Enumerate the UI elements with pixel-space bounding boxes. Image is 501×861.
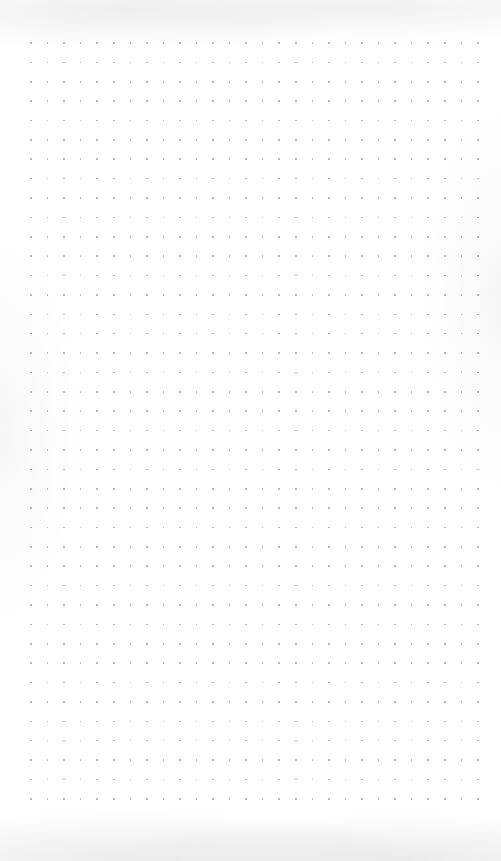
grid-dot: [295, 643, 297, 645]
grid-dot: [80, 488, 82, 490]
grid-dot: [179, 410, 181, 412]
grid-dot: [212, 565, 214, 567]
grid-dot: [229, 507, 231, 509]
grid-dot: [130, 120, 132, 122]
grid-dot: [328, 546, 330, 548]
grid-dot: [411, 217, 413, 219]
grid-dot: [328, 721, 330, 723]
grid-dot: [278, 565, 280, 567]
grid-dot: [444, 352, 446, 354]
grid-dot: [80, 294, 82, 296]
grid-dot: [146, 624, 148, 626]
grid-dot: [47, 779, 49, 781]
grid-dot: [312, 488, 314, 490]
grid-dot: [30, 527, 32, 529]
grid-dot: [394, 294, 396, 296]
grid-dot: [229, 81, 231, 83]
grid-dot: [196, 333, 198, 335]
grid-dot: [63, 624, 65, 626]
grid-dot: [146, 217, 148, 219]
grid-dot: [47, 546, 49, 548]
grid-dot: [212, 604, 214, 606]
grid-dot: [163, 139, 165, 141]
grid-dot: [444, 585, 446, 587]
grid-dot: [30, 565, 32, 567]
grid-dot: [63, 469, 65, 471]
grid-dot: [394, 604, 396, 606]
grid-dot: [461, 662, 463, 664]
grid-dot: [278, 682, 280, 684]
grid-dot: [163, 798, 165, 800]
grid-dot: [63, 62, 65, 64]
grid-dot: [378, 488, 380, 490]
grid-dot: [212, 236, 214, 238]
grid-dot: [80, 527, 82, 529]
grid-dot: [278, 158, 280, 160]
grid-dot: [411, 352, 413, 354]
grid-dot: [245, 372, 247, 374]
grid-dot: [245, 217, 247, 219]
grid-dot: [196, 662, 198, 664]
grid-dot: [130, 798, 132, 800]
grid-dot: [312, 81, 314, 83]
grid-dot: [345, 139, 347, 141]
grid-dot: [30, 81, 32, 83]
grid-dot: [411, 527, 413, 529]
grid-dot: [345, 62, 347, 64]
grid-dot: [278, 740, 280, 742]
grid-dot: [295, 236, 297, 238]
grid-dot: [163, 62, 165, 64]
grid-dot: [345, 372, 347, 374]
grid-dot: [113, 779, 115, 781]
grid-dot: [262, 139, 264, 141]
grid-dot: [328, 255, 330, 257]
grid-dot: [113, 294, 115, 296]
grid-dot: [394, 740, 396, 742]
grid-dot: [229, 352, 231, 354]
grid-dot: [262, 197, 264, 199]
grid-dot: [113, 120, 115, 122]
grid-dot: [146, 275, 148, 277]
grid-dot: [477, 314, 479, 316]
grid-dot: [245, 333, 247, 335]
grid-dot: [262, 294, 264, 296]
grid-dot: [328, 217, 330, 219]
grid-dot: [113, 410, 115, 412]
grid-dot: [262, 565, 264, 567]
grid-dot: [461, 643, 463, 645]
grid-dot: [47, 372, 49, 374]
grid-dot: [229, 294, 231, 296]
grid-dot: [30, 682, 32, 684]
grid-dot: [130, 333, 132, 335]
grid-dot: [345, 662, 347, 664]
grid-dot: [196, 721, 198, 723]
grid-dot: [196, 372, 198, 374]
grid-dot: [278, 624, 280, 626]
grid-dot: [113, 139, 115, 141]
grid-dot: [461, 779, 463, 781]
grid-dot: [295, 42, 297, 44]
grid-dot: [113, 662, 115, 664]
grid-dot: [411, 158, 413, 160]
grid-dot: [345, 449, 347, 451]
grid-dot: [212, 624, 214, 626]
grid-dot: [427, 217, 429, 219]
grid-dot: [427, 236, 429, 238]
grid-dot: [427, 721, 429, 723]
dot-grid: [0, 0, 501, 861]
grid-dot: [312, 236, 314, 238]
grid-dot: [427, 759, 429, 761]
grid-dot: [361, 643, 363, 645]
grid-dot: [30, 798, 32, 800]
grid-dot: [345, 294, 347, 296]
grid-dot: [229, 449, 231, 451]
grid-dot: [328, 430, 330, 432]
grid-dot: [444, 798, 446, 800]
grid-dot: [212, 643, 214, 645]
grid-dot: [461, 275, 463, 277]
grid-dot: [96, 701, 98, 703]
grid-dot: [30, 372, 32, 374]
grid-dot: [378, 759, 380, 761]
grid-dot: [361, 701, 363, 703]
grid-dot: [477, 275, 479, 277]
